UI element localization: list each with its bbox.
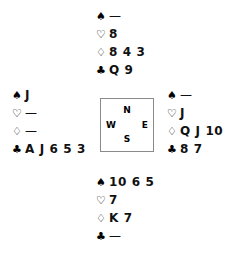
west-diamond-row: ♢ — [12, 122, 86, 140]
compass-label-east: E [142, 121, 148, 130]
south-spade-holding: 10 6 5 [109, 173, 154, 191]
spade-icon: ♠ [12, 87, 25, 105]
east-heart-row: ♡ J [167, 104, 223, 122]
bridge-deal-diagram: ♠ — ♡ 8 ♢ 8 4 3 ♣ Q 9 ♠ J ♡ — ♢ — ♣ [0, 0, 229, 258]
diamond-icon: ♢ [12, 123, 25, 141]
west-heart-row: ♡ — [12, 104, 86, 122]
east-club-holding: 8 7 [180, 140, 203, 158]
compass-label-north: N [101, 106, 153, 115]
east-club-row: ♣ 8 7 [167, 140, 223, 158]
east-diamond-row: ♢ Q J 10 [167, 122, 223, 140]
heart-icon: ♡ [12, 105, 25, 123]
north-diamond-row: ♢ 8 4 3 [96, 43, 145, 61]
compass-box: N W E S [100, 98, 154, 152]
diamond-icon: ♢ [96, 44, 109, 62]
west-club-holding: A J 6 5 3 [25, 140, 86, 158]
heart-icon: ♡ [96, 26, 109, 44]
north-heart-row: ♡ 8 [96, 25, 145, 43]
north-club-row: ♣ Q 9 [96, 61, 145, 79]
diamond-icon: ♢ [96, 210, 109, 228]
east-diamond-holding: Q J 10 [180, 122, 223, 140]
hand-east: ♠ — ♡ J ♢ Q J 10 ♣ 8 7 [167, 86, 223, 158]
spade-icon: ♠ [96, 8, 109, 26]
club-icon: ♣ [12, 141, 25, 159]
club-icon: ♣ [96, 62, 109, 80]
club-icon: ♣ [167, 141, 180, 159]
north-club-holding: Q 9 [109, 61, 134, 79]
south-diamond-row: ♢ K 7 [96, 209, 154, 227]
hand-north: ♠ — ♡ 8 ♢ 8 4 3 ♣ Q 9 [96, 7, 145, 79]
north-spade-row: ♠ — [96, 7, 145, 25]
hand-west: ♠ J ♡ — ♢ — ♣ A J 6 5 3 [12, 86, 86, 158]
west-diamond-holding: — [25, 122, 37, 140]
south-diamond-holding: K 7 [109, 209, 133, 227]
west-spade-holding: J [25, 86, 30, 104]
compass-label-west: W [106, 121, 116, 130]
east-spade-holding: — [180, 86, 192, 104]
south-spade-row: ♠ 10 6 5 [96, 173, 154, 191]
heart-icon: ♡ [167, 105, 180, 123]
south-club-holding: — [109, 227, 121, 245]
west-spade-row: ♠ J [12, 86, 86, 104]
south-heart-holding: 7 [109, 191, 118, 209]
club-icon: ♣ [96, 228, 109, 246]
west-heart-holding: — [25, 104, 37, 122]
spade-icon: ♠ [167, 87, 180, 105]
spade-icon: ♠ [96, 174, 109, 192]
hand-south: ♠ 10 6 5 ♡ 7 ♢ K 7 ♣ — [96, 173, 154, 245]
north-diamond-holding: 8 4 3 [109, 43, 145, 61]
north-heart-holding: 8 [109, 25, 118, 43]
north-spade-holding: — [109, 7, 121, 25]
west-club-row: ♣ A J 6 5 3 [12, 140, 86, 158]
east-heart-holding: J [180, 104, 185, 122]
east-spade-row: ♠ — [167, 86, 223, 104]
south-heart-row: ♡ 7 [96, 191, 154, 209]
compass-label-south: S [101, 135, 153, 144]
south-club-row: ♣ — [96, 227, 154, 245]
heart-icon: ♡ [96, 192, 109, 210]
diamond-icon: ♢ [167, 123, 180, 141]
